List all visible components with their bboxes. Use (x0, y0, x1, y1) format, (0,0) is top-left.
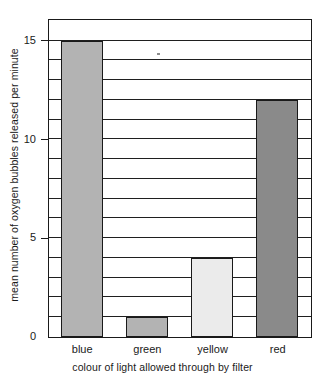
x-axis-title: colour of light allowed through by filte… (0, 361, 325, 373)
x-tick-label-green: green (115, 343, 180, 356)
bars-layer (49, 20, 311, 337)
y-tick-mark-10 (41, 139, 49, 140)
y-tick-label-10: 10 (10, 134, 36, 145)
bar-chart-figure: mean number of oxygen bubbles released p… (0, 0, 325, 379)
x-tick-label-red: red (245, 343, 310, 356)
bar-red[interactable] (256, 100, 298, 337)
x-tick-label-blue: blue (50, 343, 115, 356)
y-tick-mark-15 (41, 40, 49, 41)
bar-green[interactable] (126, 317, 168, 337)
y-tick-label-15: 15 (10, 35, 36, 46)
y-tick-label-0: 0 (10, 331, 36, 342)
y-axis-title: mean number of oxygen bubbles released p… (6, 10, 22, 340)
bar-blue[interactable] (61, 41, 103, 337)
plot-area (48, 19, 312, 338)
y-tick-mark-5 (41, 238, 49, 239)
x-tick-label-yellow: yellow (180, 343, 245, 356)
bar-yellow[interactable] (191, 258, 233, 337)
y-tick-label-5: 5 (10, 232, 36, 243)
